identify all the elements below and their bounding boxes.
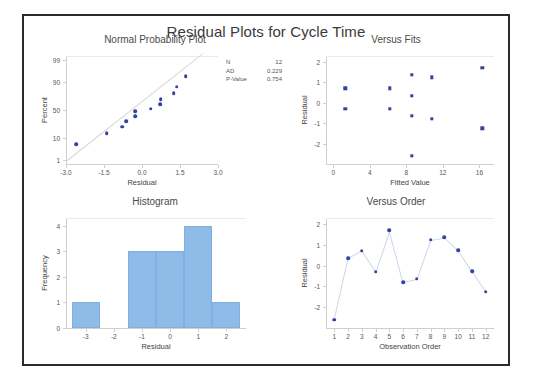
hist-xtick-label: 0 bbox=[168, 333, 172, 340]
vf-ytick-label: 2 bbox=[298, 59, 320, 66]
data-point bbox=[410, 114, 413, 117]
npp-ytick-label: 99 bbox=[38, 56, 60, 63]
hist-ytick-label: 3 bbox=[38, 248, 60, 255]
hist-ytick-label: 4 bbox=[38, 222, 60, 229]
stat-row: AD0.229 bbox=[226, 67, 282, 76]
vo-xtick bbox=[389, 329, 390, 332]
vf-ytick bbox=[323, 103, 326, 104]
hist-xtick-label: -1 bbox=[139, 333, 145, 340]
vo-xtick-label: 4 bbox=[374, 333, 378, 340]
data-point bbox=[133, 114, 137, 118]
npp-y-axis-title: Percent bbox=[40, 97, 49, 123]
histogram-bar bbox=[184, 226, 212, 328]
vo-xtick bbox=[334, 329, 335, 332]
data-point bbox=[388, 228, 392, 232]
panel-title-normal-probability-plot: Normal Probability Plot bbox=[30, 34, 280, 45]
histogram-bar bbox=[212, 302, 240, 328]
vf-xtick-label: 0 bbox=[331, 169, 335, 176]
stat-row: N12 bbox=[226, 58, 282, 67]
npp-xtick-label: 3.0 bbox=[213, 169, 222, 176]
vo-ytick bbox=[323, 286, 326, 287]
vo-xtick-label: 11 bbox=[469, 333, 476, 340]
data-point bbox=[410, 94, 413, 97]
data-point bbox=[346, 257, 350, 261]
data-point bbox=[410, 73, 413, 76]
data-point bbox=[343, 107, 346, 110]
hist-xtick bbox=[170, 329, 171, 332]
vo-ytick-label: 2 bbox=[298, 221, 320, 228]
plot-area-normal-probability-plot: -3.0-1.50.01.53.0110509099 bbox=[66, 56, 218, 164]
hist-xtick bbox=[142, 329, 143, 332]
vo-xtick bbox=[431, 329, 432, 332]
data-point bbox=[172, 92, 176, 96]
vo-xtick-label: 6 bbox=[401, 333, 405, 340]
histogram-bar bbox=[128, 251, 156, 328]
vf-top-line bbox=[326, 56, 494, 57]
plot-area-versus-order: 123456789101112-2-1012 bbox=[326, 218, 494, 328]
vo-xtick bbox=[486, 329, 487, 332]
vo-y-axis-line bbox=[326, 218, 327, 329]
data-point bbox=[430, 76, 433, 79]
vf-ytick-label: 1 bbox=[298, 79, 320, 86]
histogram-bar bbox=[156, 251, 184, 328]
series-segment bbox=[416, 240, 431, 279]
data-point bbox=[415, 277, 419, 281]
data-point bbox=[374, 270, 378, 274]
data-point bbox=[484, 290, 488, 294]
panel-normal-probability-plot: Normal Probability Plot -3.0-1.50.01.53.… bbox=[30, 34, 280, 192]
vo-xtick bbox=[376, 329, 377, 332]
vf-ytick bbox=[323, 123, 326, 124]
npp-xtick bbox=[66, 165, 67, 168]
hist-xtick bbox=[114, 329, 115, 332]
hist-xtick-label: 1 bbox=[196, 333, 200, 340]
stat-value: 12 bbox=[256, 58, 282, 67]
data-point bbox=[480, 66, 483, 69]
vo-ytick-label: -2 bbox=[298, 304, 320, 311]
vo-x-axis-line bbox=[326, 328, 494, 329]
data-point bbox=[105, 132, 109, 136]
vf-ytick-label: -2 bbox=[298, 140, 320, 147]
npp-top-line bbox=[66, 56, 218, 57]
data-point bbox=[124, 119, 128, 123]
vo-ytick bbox=[323, 266, 326, 267]
vf-xtick-label: 16 bbox=[476, 169, 483, 176]
npp-xtick bbox=[104, 165, 105, 168]
data-point bbox=[332, 318, 336, 322]
histogram-bar bbox=[72, 302, 100, 328]
npp-reference-line bbox=[66, 53, 203, 162]
data-point bbox=[133, 110, 137, 114]
vf-xtick bbox=[443, 165, 444, 168]
vo-xtick-label: 12 bbox=[482, 333, 489, 340]
npp-xtick-label: 0.0 bbox=[137, 169, 146, 176]
npp-ytick-label: 10 bbox=[38, 134, 60, 141]
vo-top-line bbox=[326, 218, 494, 219]
data-point bbox=[429, 238, 433, 242]
hist-xtick bbox=[198, 329, 199, 332]
hist-x-axis-title: Residual bbox=[141, 342, 170, 351]
hist-y-axis-title: Frequency bbox=[40, 255, 49, 290]
series-segment bbox=[375, 230, 390, 272]
vf-xtick bbox=[479, 165, 480, 168]
panel-title-versus-fits: Versus Fits bbox=[282, 34, 510, 45]
hist-ytick bbox=[63, 251, 66, 252]
series-segment bbox=[334, 259, 349, 320]
vo-ytick bbox=[323, 245, 326, 246]
panel-versus-order: Versus Order 123456789101112-2-1012 Obse… bbox=[282, 196, 510, 362]
hist-y-axis-line bbox=[66, 218, 67, 329]
vo-xtick bbox=[417, 329, 418, 332]
panel-title-versus-order: Versus Order bbox=[282, 196, 510, 207]
vo-xtick-label: 10 bbox=[455, 333, 462, 340]
data-point bbox=[410, 154, 413, 157]
hist-ytick bbox=[63, 277, 66, 278]
vo-ytick bbox=[323, 224, 326, 225]
npp-xtick bbox=[180, 165, 181, 168]
vo-ytick-label: 1 bbox=[298, 241, 320, 248]
stat-key: P-Value bbox=[226, 75, 256, 84]
npp-xtick-label: -1.5 bbox=[98, 169, 109, 176]
vf-xtick-label: 12 bbox=[439, 169, 446, 176]
vo-xtick bbox=[348, 329, 349, 332]
vo-xtick-label: 9 bbox=[443, 333, 447, 340]
vf-xtick-label: 4 bbox=[368, 169, 372, 176]
stat-value: 0.754 bbox=[256, 75, 282, 84]
hist-ytick-label: 0 bbox=[38, 325, 60, 332]
